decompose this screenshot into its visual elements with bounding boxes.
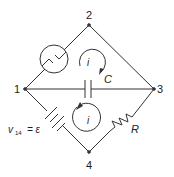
battery-label-value: = ε [27, 124, 41, 135]
capacitor-1-3 [25, 80, 154, 98]
circuit-diagram: 2 1 3 4 C R i i v 14 = ε [0, 0, 174, 177]
battery-1-4 [25, 89, 89, 152]
node-label-2: 2 [86, 9, 92, 21]
node-label-4: 4 [86, 159, 92, 171]
node-label-3: 3 [157, 83, 163, 95]
loop-label-upper: i [87, 57, 90, 68]
capacitor-label: C [104, 73, 112, 85]
node-1 [24, 88, 27, 91]
node-2 [88, 24, 91, 27]
resistor-4-3 [89, 89, 154, 152]
node-label-1: 1 [14, 83, 20, 95]
wire-2-3 [89, 25, 154, 89]
loop-label-lower: i [87, 115, 90, 126]
node-3 [153, 88, 156, 91]
battery-label-v: v [8, 124, 14, 135]
resistor-label: R [131, 123, 139, 135]
node-4 [88, 151, 91, 154]
battery-label-subscript: 14 [15, 130, 22, 136]
current-source-1-2 [25, 25, 89, 89]
loop-arrow-upper-icon [79, 49, 105, 75]
